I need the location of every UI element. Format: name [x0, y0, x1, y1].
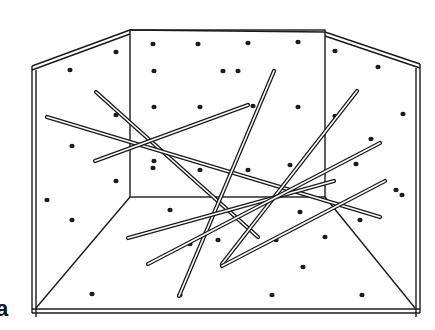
dot	[69, 218, 74, 222]
top-right-edge	[325, 32, 420, 64]
dot	[359, 293, 364, 297]
dot	[400, 112, 405, 116]
dot	[295, 40, 300, 44]
dot	[297, 210, 302, 214]
floor-left-edge	[36, 197, 130, 308]
dot	[245, 168, 250, 172]
dot	[151, 159, 156, 163]
dot	[368, 137, 373, 141]
dot	[195, 42, 200, 46]
dot	[235, 69, 240, 73]
dot	[245, 41, 250, 45]
dot	[295, 105, 300, 109]
box-frame	[32, 30, 420, 317]
top-left-edge	[32, 30, 130, 66]
dot	[215, 238, 220, 242]
dot	[151, 105, 156, 109]
stick	[128, 181, 334, 238]
dot	[113, 50, 118, 54]
dot	[150, 42, 155, 46]
dot	[375, 65, 380, 69]
dot	[197, 105, 202, 109]
dot	[322, 235, 327, 239]
dot	[357, 218, 362, 222]
dot	[287, 163, 292, 167]
dot	[44, 198, 49, 202]
dot	[332, 49, 337, 53]
dot	[89, 292, 94, 296]
dot	[69, 144, 74, 148]
dot	[167, 208, 172, 212]
dot	[300, 265, 305, 269]
dot	[151, 69, 156, 73]
box-diagram	[0, 0, 435, 330]
dot	[150, 166, 155, 170]
dot	[67, 68, 72, 72]
top-right-edge-inner	[325, 36, 420, 68]
dot	[353, 162, 358, 166]
dot	[113, 179, 118, 183]
dot	[269, 293, 274, 297]
dot	[399, 193, 404, 197]
dot	[197, 168, 202, 172]
panel-label: a	[0, 296, 8, 322]
sticks	[47, 71, 385, 296]
dot	[220, 69, 225, 73]
dot	[250, 104, 255, 108]
dot	[393, 188, 398, 192]
